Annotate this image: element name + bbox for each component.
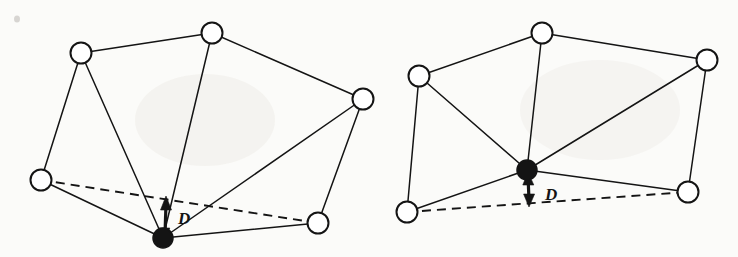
figure-root: D [0,0,738,257]
node-bottom-right[interactable] [678,182,699,203]
node-right[interactable] [353,89,374,110]
figure-canvas: D [0,0,738,257]
node-right[interactable] [697,50,718,71]
node-bottom-right[interactable] [308,213,329,234]
node-top-left[interactable] [71,43,92,64]
node-top-middle[interactable] [202,23,223,44]
node-left[interactable] [31,170,52,191]
node-left[interactable] [409,66,430,87]
scan-speck [14,15,20,22]
paper-smudge [520,60,680,160]
dimension-label-d-left: D [177,209,190,228]
node-marked-vertex[interactable] [153,228,173,248]
paper-smudge [135,74,275,166]
node-marked-vertex[interactable] [517,160,537,180]
dimension-label-d-right: D [544,185,557,204]
node-bottom-left[interactable] [397,202,418,223]
node-top[interactable] [532,23,553,44]
